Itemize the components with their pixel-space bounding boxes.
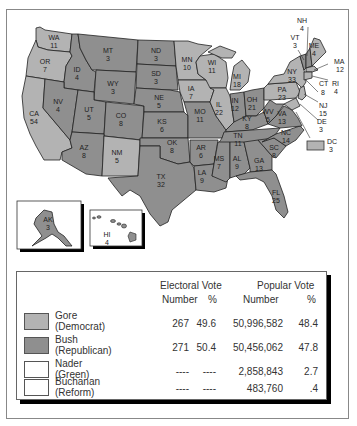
svg-text:NV: NV bbox=[53, 98, 63, 105]
svg-text:11: 11 bbox=[234, 140, 241, 147]
svg-text:KS: KS bbox=[157, 118, 167, 125]
svg-text:AL: AL bbox=[233, 155, 242, 162]
alaska-inset: AK3 bbox=[17, 201, 84, 252]
svg-text:3: 3 bbox=[46, 224, 50, 231]
svg-text:9: 9 bbox=[200, 177, 204, 184]
svg-text:5: 5 bbox=[87, 114, 91, 121]
candidate-name: Buchanan bbox=[55, 377, 100, 387]
svg-text:14: 14 bbox=[282, 137, 290, 144]
candidate-party: (Republican) bbox=[55, 346, 112, 356]
state-CO[interactable] bbox=[104, 102, 144, 140]
svg-text:AR: AR bbox=[196, 144, 206, 151]
state-WY[interactable] bbox=[94, 70, 136, 104]
svg-text:4: 4 bbox=[300, 25, 304, 32]
svg-text:8: 8 bbox=[82, 152, 86, 159]
svg-text:8: 8 bbox=[119, 120, 123, 127]
state-FL[interactable] bbox=[236, 170, 288, 218]
hawaii-inset: HI4 bbox=[90, 210, 145, 249]
ev-number: ---- bbox=[176, 383, 189, 394]
svg-text:RI: RI bbox=[332, 80, 339, 87]
svg-text:3: 3 bbox=[329, 146, 333, 153]
state-KS[interactable] bbox=[142, 112, 188, 138]
svg-text:WA: WA bbox=[48, 34, 59, 41]
svg-text:NE: NE bbox=[154, 94, 164, 101]
svg-text:54: 54 bbox=[30, 118, 38, 125]
svg-text:NC: NC bbox=[281, 129, 291, 136]
svg-text:4: 4 bbox=[105, 239, 109, 246]
svg-text:OH: OH bbox=[247, 96, 258, 103]
svg-text:DE: DE bbox=[317, 118, 327, 125]
svg-text:CO: CO bbox=[116, 112, 127, 119]
states bbox=[22, 27, 326, 226]
svg-text:5: 5 bbox=[266, 116, 270, 123]
ev-percent: 50.4 bbox=[197, 342, 216, 353]
svg-text:3: 3 bbox=[319, 126, 323, 133]
svg-text:NM: NM bbox=[112, 149, 123, 156]
electoral-vote-header: Electoral Vote bbox=[160, 280, 222, 291]
ev-percent-header: % bbox=[208, 294, 217, 305]
pop-number: 483,760 bbox=[247, 383, 283, 394]
svg-text:UT: UT bbox=[84, 106, 94, 113]
svg-text:NH: NH bbox=[297, 17, 307, 24]
ev-percent: 49.6 bbox=[197, 318, 216, 329]
ev-number: 271 bbox=[172, 342, 189, 353]
pop-percent: 48.4 bbox=[299, 318, 318, 329]
svg-text:21: 21 bbox=[248, 104, 256, 111]
svg-text:MA: MA bbox=[334, 58, 345, 65]
svg-text:3: 3 bbox=[106, 55, 110, 62]
svg-text:3: 3 bbox=[154, 78, 158, 85]
svg-text:AK: AK bbox=[43, 216, 53, 223]
svg-text:IL: IL bbox=[216, 101, 222, 108]
candidate-party: (Democrat) bbox=[55, 322, 105, 332]
state-NJ[interactable] bbox=[298, 86, 306, 100]
pop-number: 50,996,582 bbox=[233, 318, 283, 329]
svg-text:5: 5 bbox=[157, 102, 161, 109]
svg-text:13: 13 bbox=[278, 118, 286, 125]
svg-text:OR: OR bbox=[40, 58, 51, 65]
pop-percent: 47.8 bbox=[299, 342, 318, 353]
svg-text:HI: HI bbox=[104, 231, 111, 238]
svg-text:4: 4 bbox=[56, 106, 60, 113]
state-NM[interactable] bbox=[102, 136, 140, 176]
ev-percent: ---- bbox=[203, 366, 216, 377]
svg-text:OK: OK bbox=[167, 139, 177, 146]
svg-text:3: 3 bbox=[111, 88, 115, 95]
svg-text:6: 6 bbox=[199, 152, 203, 159]
svg-text:CT: CT bbox=[319, 80, 329, 87]
state-SD[interactable] bbox=[136, 64, 178, 90]
pop-percent: .4 bbox=[310, 383, 318, 394]
svg-text:7: 7 bbox=[189, 93, 193, 100]
democrat-swatch bbox=[24, 313, 49, 330]
ev-number: 267 bbox=[172, 318, 189, 329]
svg-text:5: 5 bbox=[115, 157, 119, 164]
svg-text:18: 18 bbox=[233, 81, 241, 88]
pop-number: 2,858,843 bbox=[239, 366, 284, 377]
svg-text:GA: GA bbox=[254, 157, 264, 164]
svg-text:CA: CA bbox=[29, 110, 39, 117]
svg-text:15: 15 bbox=[319, 110, 327, 117]
svg-text:DC: DC bbox=[327, 138, 337, 145]
svg-text:IA: IA bbox=[188, 85, 195, 92]
svg-text:ME: ME bbox=[309, 42, 320, 49]
legend-row-buchanan: Buchanan (Reform) ---- ---- 483,760 .4 bbox=[17, 380, 326, 408]
svg-text:33: 33 bbox=[288, 76, 296, 83]
svg-text:7: 7 bbox=[217, 163, 221, 170]
svg-text:TN: TN bbox=[233, 132, 242, 139]
green-swatch bbox=[24, 361, 49, 378]
svg-text:32: 32 bbox=[157, 181, 165, 188]
candidate-party: (Reform) bbox=[55, 388, 94, 398]
results-legend: Electoral Vote Popular Vote Number % Num… bbox=[16, 271, 327, 400]
svg-text:4: 4 bbox=[75, 74, 79, 81]
candidate-name: Nader bbox=[55, 359, 82, 369]
svg-text:KY: KY bbox=[242, 115, 252, 122]
state-CT[interactable] bbox=[304, 72, 312, 80]
republican-swatch bbox=[24, 337, 49, 354]
svg-text:8: 8 bbox=[272, 152, 276, 159]
svg-text:WY: WY bbox=[107, 80, 119, 87]
svg-text:11: 11 bbox=[50, 42, 57, 49]
svg-text:6: 6 bbox=[160, 126, 164, 133]
candidate-name: Gore bbox=[55, 311, 77, 321]
pop-number: 50,456,062 bbox=[233, 342, 283, 353]
svg-text:NY: NY bbox=[287, 68, 297, 75]
dc-swatch bbox=[307, 141, 324, 150]
